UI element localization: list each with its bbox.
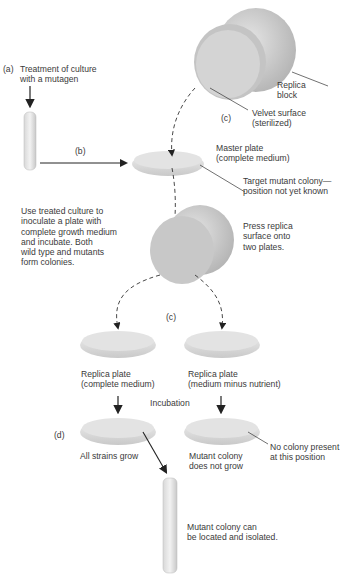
step-b-text: Use treated culture to inoculate a plate… bbox=[21, 206, 117, 268]
step-a-marker: (a) bbox=[3, 64, 14, 74]
step-c-marker-top: (c) bbox=[221, 113, 231, 123]
replica-plate-complete-label: Replica plate (complete medium) bbox=[81, 369, 155, 390]
replica-plate-complete bbox=[80, 331, 156, 358]
replica-plate-minus-label: Replica plate (medium minus nutrient) bbox=[188, 369, 281, 390]
isolated-label: Mutant colony can be located and isolate… bbox=[187, 522, 278, 543]
plate-all-strains bbox=[80, 418, 156, 445]
test-tube-treated bbox=[24, 112, 36, 170]
test-tube-isolated bbox=[163, 478, 177, 573]
step-d-marker: (d) bbox=[54, 430, 65, 440]
step-b-marker: (b) bbox=[75, 146, 86, 156]
incubation-label: Incubation bbox=[150, 398, 190, 408]
step-c-marker-mid: (c) bbox=[166, 312, 176, 322]
velvet-surface-label: Velvet surface (sterilized) bbox=[252, 108, 306, 129]
replica-plate-minus-nutrient bbox=[184, 331, 260, 358]
master-plate-label: Master plate (complete medium) bbox=[216, 143, 290, 164]
step-a-text: Treatment of culture with a mutagen bbox=[20, 64, 97, 85]
master-plate bbox=[132, 151, 204, 176]
no-colony-label: No colony present at this position bbox=[270, 442, 339, 463]
press-replica-label: Press replica surface onto two plates. bbox=[243, 221, 293, 252]
target-colony-label: Target mutant colony— position not yet k… bbox=[243, 176, 331, 197]
plate-mutant-absent bbox=[184, 418, 260, 445]
replica-block-label: Replica block bbox=[277, 80, 306, 101]
replica-block-pressed bbox=[150, 205, 234, 284]
mutant-not-grow-label: Mutant colony does not grow bbox=[189, 451, 243, 472]
all-strains-label: All strains grow bbox=[80, 451, 138, 461]
